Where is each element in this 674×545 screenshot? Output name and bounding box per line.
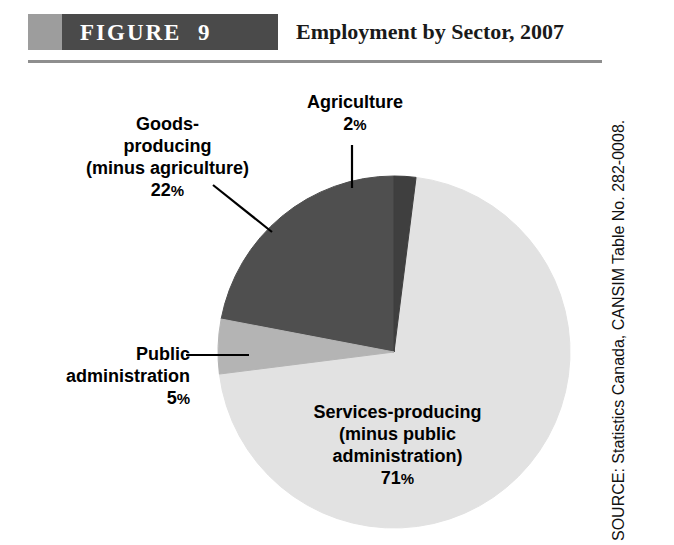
pie-chart-area: Agriculture 2% Goods- producing (minus a… — [0, 72, 612, 545]
pie-label-agriculture-percent-sign: % — [353, 116, 366, 133]
pie-label-public-percent-sign: % — [177, 390, 190, 407]
pie-label-agriculture-value: 2% — [270, 114, 440, 136]
pie-label-goods-number: 22 — [151, 180, 171, 200]
pie-label-agriculture-number: 2 — [343, 114, 353, 134]
pie-label-goods-line3: (minus agriculture) — [55, 158, 280, 180]
pie-label-goods-producing: Goods- producing (minus agriculture) 22% — [55, 114, 280, 202]
figure-header-rule — [28, 60, 602, 63]
pie-label-agriculture-line1: Agriculture — [270, 92, 440, 114]
pie-label-public-line1: Public — [0, 344, 190, 366]
pie-label-services-percent-sign: % — [401, 470, 414, 487]
figure-title: Employment by Sector, 2007 — [296, 19, 564, 45]
pie-label-public-number: 5 — [167, 388, 177, 408]
pie-label-services-line3: administration) — [275, 446, 520, 468]
figure-banner: FIGURE 9 — [28, 14, 278, 50]
pie-label-services-line2: (minus public — [275, 424, 520, 446]
pie-label-goods-line2: producing — [55, 136, 280, 158]
pie-label-services-line1: Services-producing — [275, 402, 520, 424]
figure-banner-number: 9 — [198, 20, 210, 46]
pie-label-public-administration: Public administration 5% — [0, 344, 190, 410]
pie-label-services-producing: Services-producing (minus public adminis… — [275, 402, 520, 490]
pie-label-public-value: 5% — [0, 388, 190, 410]
pie-label-services-value: 71% — [275, 468, 520, 490]
pie-label-goods-line1: Goods- — [55, 114, 280, 136]
pie-label-goods-percent-sign: % — [171, 182, 184, 199]
figure-header: FIGURE 9 Employment by Sector, 2007 — [28, 14, 600, 52]
pie-label-goods-value: 22% — [55, 180, 280, 202]
figure-banner-label: FIGURE — [80, 20, 181, 46]
pie-label-services-number: 71 — [381, 468, 401, 488]
source-note: SOURCE: Statistics Canada, CANSIM Table … — [610, 120, 628, 541]
pie-label-public-line2: administration — [0, 366, 190, 388]
pie-label-agriculture: Agriculture 2% — [270, 92, 440, 136]
